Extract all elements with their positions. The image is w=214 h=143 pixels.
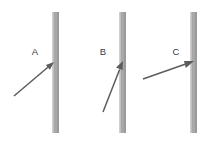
wall-bar-a bbox=[52, 12, 59, 133]
wall-bar-a-shadow bbox=[57, 12, 59, 133]
wall-bar-b-shadow bbox=[124, 12, 126, 133]
wall-bar-c-shadow bbox=[195, 12, 197, 133]
wall-bar-b bbox=[119, 12, 126, 133]
wall-bar-c bbox=[190, 12, 197, 133]
panel-label-b: B bbox=[100, 46, 107, 57]
vector-diagram: A B C bbox=[0, 0, 214, 143]
panel-label-c: C bbox=[172, 46, 179, 57]
panel-label-a: A bbox=[32, 46, 39, 57]
background bbox=[0, 0, 214, 143]
figure-canvas: A B C bbox=[0, 0, 214, 143]
